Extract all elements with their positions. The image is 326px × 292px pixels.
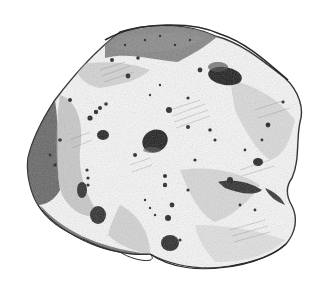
rock-drawing <box>0 0 326 292</box>
illustration-canvas: Graphite sketch of an irregular cratered… <box>0 0 326 292</box>
